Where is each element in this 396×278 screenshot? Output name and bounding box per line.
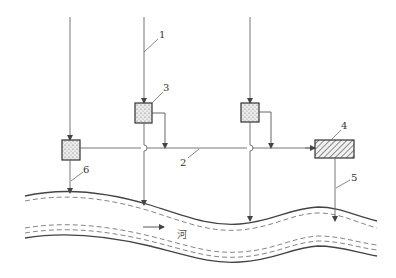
box-right	[241, 103, 259, 122]
box-4	[315, 140, 354, 158]
box-3-branch	[152, 113, 165, 148]
label-3: 3	[163, 82, 169, 93]
river-top-dashed	[25, 197, 377, 230]
river-bottom-bank	[25, 235, 377, 263]
label-4: 4	[341, 120, 347, 131]
label-6: 6	[83, 164, 89, 175]
river-bottom-dashed-2	[25, 230, 377, 258]
drainage-diagram: 河 1 3 2 4 5 6	[0, 0, 396, 278]
box-right-branch	[259, 112, 271, 148]
river-bottom-dashed-1	[25, 225, 377, 253]
bypass-pipe-1	[144, 123, 147, 205]
river-label: 河	[177, 229, 187, 240]
river: 河	[25, 191, 377, 262]
label-2: 2	[180, 157, 186, 168]
diagram-canvas: 河 1 3 2 4 5 6	[0, 0, 396, 278]
box-left	[62, 140, 80, 160]
box-3	[135, 103, 152, 123]
label-1: 1	[159, 29, 165, 40]
river-top-bank	[25, 191, 377, 224]
bypass-pipe-right	[250, 122, 253, 221]
label-5: 5	[351, 172, 357, 183]
